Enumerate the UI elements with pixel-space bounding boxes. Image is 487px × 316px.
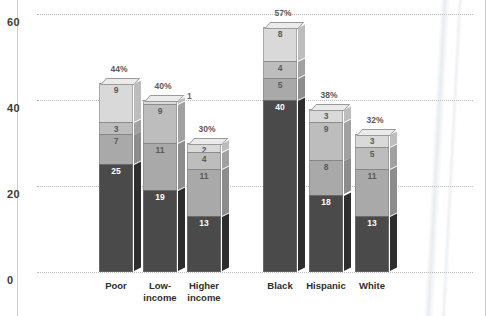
- bar-segment: 9: [143, 104, 177, 143]
- bar-segment-side-face: [222, 214, 229, 271]
- bar-segment: 8: [263, 27, 297, 61]
- bar-segment-side-face: [344, 119, 351, 160]
- bar-segment: 3: [309, 109, 343, 122]
- gridline-0: [37, 272, 473, 273]
- bar-total-label: 57%: [261, 8, 305, 18]
- bar-segment: 11: [143, 143, 177, 190]
- bar-segment: 4: [187, 152, 221, 169]
- bar-segment-side-face: [390, 214, 397, 271]
- bar-segment-side-face: [390, 166, 397, 216]
- segment-value-label: 7: [100, 136, 132, 146]
- segment-value-label: 19: [144, 192, 176, 202]
- page-border-left: [17, 0, 18, 316]
- segment-value-label: 13: [356, 218, 388, 228]
- x-axis-label-white: White: [342, 280, 402, 292]
- segment-value-label: 25: [100, 166, 132, 176]
- x-axis-label-higher-income: Higherincome: [174, 280, 234, 303]
- bar-black: 84540: [263, 27, 297, 272]
- bar-segment-side-face: [178, 102, 185, 143]
- segment-value-label: 3: [310, 111, 342, 121]
- segment-value-label: 8: [310, 162, 342, 172]
- segment-value-label: 4: [264, 63, 296, 73]
- bar-segment-side-face: [344, 158, 351, 195]
- bar-segment-side-face: [134, 162, 141, 271]
- bar-segment: 5: [355, 147, 389, 169]
- segment-value-label: 4: [188, 154, 220, 164]
- segment-value-label: 8: [264, 29, 296, 39]
- segment-value-label-outside: 1: [187, 91, 192, 101]
- plot-area: 0204060 44%9372540%19111930%24111357%845…: [37, 14, 473, 272]
- bar-segment: 3: [99, 122, 133, 135]
- segment-value-label: 11: [356, 171, 388, 181]
- segment-value-label: 5: [356, 149, 388, 159]
- page-border-right: [485, 0, 486, 316]
- bars-layer: 44%9372540%19111930%24111357%8454038%398…: [37, 14, 473, 272]
- bar-segment: 13: [187, 216, 221, 272]
- x-axis-labels: PoorLow-incomeHigherincomeBlackHispanicW…: [37, 280, 473, 314]
- bar-segment-side-face: [298, 98, 305, 271]
- bar-top-face: [100, 78, 140, 85]
- bar-total-label: 30%: [185, 124, 229, 134]
- segment-value-label: 9: [100, 85, 132, 95]
- bar-segment-side-face: [344, 192, 351, 271]
- bar-white: 351113: [355, 134, 389, 272]
- bar-top-face: [264, 22, 304, 29]
- bar-segment-side-face: [178, 141, 185, 191]
- segment-value-label: 11: [144, 145, 176, 155]
- y-axis-tick-label-20: 20: [7, 188, 20, 200]
- bar-low-income: 91119: [143, 100, 177, 272]
- bar-segment-side-face: [222, 166, 229, 216]
- bar-segment: 7: [99, 134, 133, 164]
- segment-value-label: 3: [356, 136, 388, 146]
- bar-segment: 3: [355, 134, 389, 147]
- bar-segment: 18: [309, 195, 343, 272]
- bar-segment: 2: [187, 143, 221, 152]
- y-axis-tick-label-0: 0: [7, 274, 13, 286]
- segment-value-label: 40: [264, 102, 296, 112]
- segment-value-label: 3: [100, 124, 132, 134]
- bar-poor: 93725: [99, 83, 133, 272]
- segment-value-label: 9: [144, 106, 176, 116]
- bar-segment: 11: [187, 169, 221, 216]
- bar-total-label: 40%: [141, 81, 185, 91]
- bar-segment: 5: [263, 78, 297, 100]
- stacked-bar-chart: 0204060 44%9372540%19111930%24111357%845…: [0, 0, 487, 316]
- bar-segment: 25: [99, 164, 133, 272]
- bar-hispanic: 39818: [309, 109, 343, 272]
- y-axis-tick-label-40: 40: [7, 102, 20, 114]
- bar-segment-side-face: [390, 145, 397, 169]
- bar-top-face: [310, 104, 350, 111]
- bar-total-label: 38%: [307, 90, 351, 100]
- bar-total-label: 32%: [353, 115, 397, 125]
- bar-segment-side-face: [298, 24, 305, 61]
- bar-higher-income: 241113: [187, 143, 221, 272]
- bar-segment: 8: [309, 160, 343, 194]
- segment-value-label: 13: [188, 218, 220, 228]
- segment-value-label: 9: [310, 124, 342, 134]
- bar-segment: 9: [99, 83, 133, 122]
- bar-top-face: [188, 138, 228, 145]
- bar-segment-side-face: [178, 188, 185, 271]
- bar-segment-side-face: [134, 80, 141, 121]
- y-axis-tick-label-60: 60: [7, 16, 20, 28]
- bar-total-label: 44%: [97, 64, 141, 74]
- bar-segment: 13: [355, 216, 389, 272]
- bar-top-face: [356, 129, 396, 136]
- bar-segment-side-face: [134, 132, 141, 165]
- segment-value-label: 5: [264, 80, 296, 90]
- segment-value-label: 11: [188, 171, 220, 181]
- bar-segment-side-face: [298, 76, 305, 100]
- bar-segment: 9: [309, 122, 343, 161]
- bar-segment: 11: [355, 169, 389, 216]
- bar-segment: 4: [263, 61, 297, 78]
- bar-segment: 40: [263, 100, 297, 272]
- bar-segment: 19: [143, 190, 177, 272]
- segment-value-label: 18: [310, 197, 342, 207]
- bar-top-face: [144, 95, 184, 102]
